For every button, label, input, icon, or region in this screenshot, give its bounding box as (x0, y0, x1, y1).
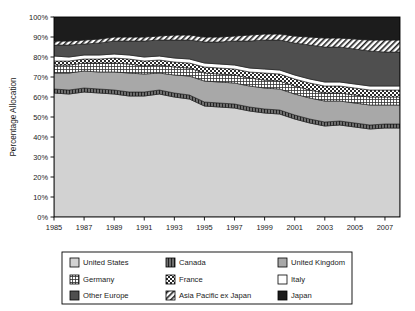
y-axis: 0%10%20%30%40%50%60%70%80%90%100% (29, 13, 54, 222)
legend-label-other-europe: Other Europe (83, 291, 129, 300)
legend-label-japan: Japan (291, 291, 312, 300)
legend-label-united-kingdom: United Kingdom (291, 258, 345, 267)
legend-label-italy: Italy (291, 275, 305, 284)
legend-swatch-italy (278, 275, 287, 284)
y-tick-label: 70% (33, 73, 48, 82)
chart-legend: United StatesCanadaUnited KingdomGermany… (62, 252, 352, 304)
x-tick-label: 1991 (136, 223, 152, 232)
x-tick-label: 2003 (317, 223, 333, 232)
legend-label-germany: Germany (83, 275, 114, 284)
legend-swatch-united-kingdom (278, 258, 287, 267)
legend-swatch-other-europe (70, 291, 79, 300)
x-tick-label: 1997 (226, 223, 242, 232)
legend-swatch-united-states (70, 258, 79, 267)
y-tick-label: 80% (33, 53, 48, 62)
legend-swatch-japan (278, 291, 287, 300)
chart-figure: 0%10%20%30%40%50%60%70%80%90%100% 198519… (0, 0, 415, 311)
legend-label-canada: Canada (179, 258, 206, 267)
legend-swatch-france (166, 275, 175, 284)
legend-swatch-asia-pacific-ex-japan (166, 291, 175, 300)
x-tick-label: 2007 (377, 223, 393, 232)
x-tick-label: 1989 (106, 223, 122, 232)
legend-swatch-canada (166, 258, 175, 267)
x-tick-label: 2001 (286, 223, 302, 232)
x-tick-label: 1985 (46, 223, 62, 232)
y-tick-label: 100% (29, 13, 48, 22)
y-tick-label: 90% (33, 33, 48, 42)
x-axis: 1985198719891991199319951997199920012003… (46, 217, 393, 232)
x-tick-label: 1987 (76, 223, 92, 232)
y-tick-label: 30% (33, 153, 48, 162)
y-tick-label: 10% (33, 193, 48, 202)
y-tick-label: 40% (33, 133, 48, 142)
x-tick-label: 2005 (347, 223, 363, 232)
legend-swatch-germany (70, 275, 79, 284)
legend-label-asia-pacific-ex-japan: Asia Pacific ex Japan (179, 291, 251, 300)
stacked-area-chart: 0%10%20%30%40%50%60%70%80%90%100% 198519… (0, 0, 415, 311)
x-tick-label: 1999 (256, 223, 272, 232)
y-tick-label: 0% (37, 213, 48, 222)
x-tick-label: 1995 (196, 223, 212, 232)
y-tick-label: 60% (33, 93, 48, 102)
x-tick-label: 1993 (166, 223, 182, 232)
legend-label-france: France (179, 275, 203, 284)
y-tick-label: 50% (33, 113, 48, 122)
legend-label-united-states: United States (83, 258, 129, 267)
series-bands (54, 17, 400, 217)
y-tick-label: 20% (33, 173, 48, 182)
y-axis-title: Percentage Allocation (9, 77, 18, 157)
